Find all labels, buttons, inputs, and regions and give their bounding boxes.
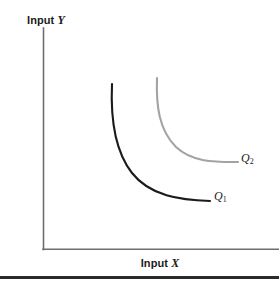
curve-label-q2-subscript: 2 — [250, 157, 254, 166]
curve-label-q2: Q2 — [241, 151, 254, 166]
y-axis-title-text: Input — [27, 14, 58, 26]
curve-label-q1-text: Q — [214, 189, 223, 203]
y-axis-variable: Y — [58, 13, 65, 27]
curve-label-q1: Q1 — [214, 189, 227, 204]
x-axis-title-text: Input — [141, 257, 172, 269]
x-axis-title: Input X — [120, 256, 200, 271]
x-axis-variable: X — [171, 256, 179, 270]
curve-label-q1-subscript: 1 — [223, 195, 227, 204]
bottom-horizontal-rule — [0, 276, 279, 279]
isoquant-chart — [0, 0, 279, 288]
figure-canvas: Input Y Input X Q1 Q2 — [0, 0, 279, 288]
curve-label-q2-text: Q — [241, 151, 250, 165]
isoquant-curve-q2 — [157, 78, 238, 162]
isoquant-curve-q1 — [112, 84, 210, 201]
y-axis-title: Input Y — [27, 13, 65, 28]
